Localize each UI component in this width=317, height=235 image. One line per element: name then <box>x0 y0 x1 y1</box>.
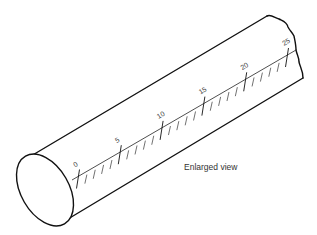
minor-tick <box>235 87 237 96</box>
minor-tick <box>260 73 262 82</box>
major-tick <box>244 72 247 91</box>
cylinder-broken-end <box>267 15 303 78</box>
minor-tick <box>110 160 112 169</box>
scale-label: 5 <box>114 136 121 144</box>
major-tick <box>160 121 163 140</box>
scale-label: 25 <box>281 37 291 47</box>
scale-label: 20 <box>239 61 249 71</box>
cylinder-diagram: 0510152025 <box>0 0 317 235</box>
scale-labels: 0510152025 <box>72 37 291 169</box>
major-tick <box>202 97 205 116</box>
minor-tick <box>219 97 221 106</box>
minor-tick <box>93 170 95 179</box>
minor-tick <box>127 150 129 159</box>
minor-tick <box>210 102 212 111</box>
minor-tick <box>168 126 170 135</box>
minor-tick <box>102 165 104 174</box>
minor-tick <box>194 111 196 120</box>
minor-tick <box>143 141 145 150</box>
major-tick <box>77 170 80 189</box>
scale-ticks <box>77 48 289 189</box>
major-tick <box>286 48 289 67</box>
minor-tick <box>185 116 187 125</box>
minor-tick <box>152 136 154 145</box>
scale-label: 10 <box>156 110 166 120</box>
minor-tick <box>269 68 271 77</box>
cylinder-bottom-edge <box>63 78 303 222</box>
minor-tick <box>227 92 229 101</box>
minor-tick <box>85 175 87 184</box>
cylinder-end-cap <box>5 144 86 235</box>
scale-label: 15 <box>197 85 207 95</box>
scale-baseline <box>72 50 296 180</box>
minor-tick <box>252 77 254 86</box>
minor-tick <box>177 121 179 130</box>
minor-tick <box>135 145 137 154</box>
major-tick <box>118 145 121 164</box>
minor-tick <box>277 63 279 72</box>
figure-caption: Enlarged view <box>184 162 237 172</box>
scale-label: 0 <box>72 160 79 168</box>
